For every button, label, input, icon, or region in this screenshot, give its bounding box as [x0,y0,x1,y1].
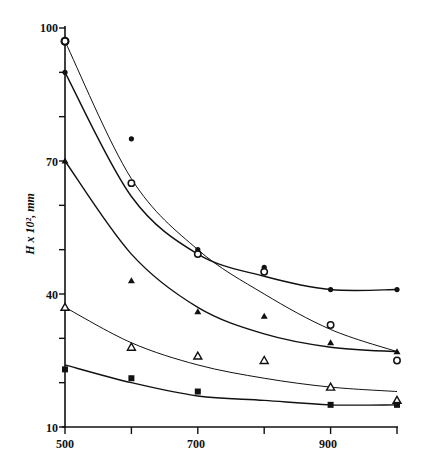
data-point-filled-circle [394,287,399,292]
data-point-open-circle [62,38,68,44]
data-point-filled-square [62,366,68,372]
y-tick-label-100: 100 [40,21,58,35]
x-tick-label-900: 900 [319,437,337,451]
y-tick-label-70: 70 [46,155,58,169]
data-point-filled-square [328,402,334,408]
fit-curve-filled-circle [65,72,397,290]
data-point-open-triangle [194,352,202,359]
data-point-filled-triangle [261,313,268,319]
data-point-filled-circle [62,70,67,75]
data-point-filled-triangle [327,339,334,345]
fit-curve-filled-triangle [65,161,397,352]
axes [62,26,398,428]
data-point-filled-circle [129,136,134,141]
data-point-open-circle [195,251,201,257]
x-ticks [65,427,397,434]
data-point-filled-triangle [128,277,135,283]
y-axis-title: H x 10², mm [23,193,37,256]
data-markers [61,37,402,408]
x-tick-label-700: 700 [187,437,205,451]
data-point-filled-square [195,389,201,395]
x-tick-label-500: 500 [56,437,74,451]
y-tick-label-40: 40 [46,288,58,302]
fit-curve-open-circle [65,41,397,351]
data-point-open-circle [394,357,400,363]
fit-curves [65,41,397,405]
chart-plot: 100 70 40 10 500 700 900 H x 10², mm [0,0,423,472]
data-point-open-triangle [61,303,69,310]
data-point-open-triangle [260,357,268,364]
fit-curve-filled-square [65,365,397,405]
data-point-open-circle [261,269,267,275]
data-point-filled-circle [328,287,333,292]
data-point-open-circle [327,322,333,328]
data-point-filled-square [128,375,134,381]
y-tick-label-10: 10 [46,421,58,435]
data-point-open-triangle [327,383,335,390]
data-point-filled-square [394,402,400,408]
data-point-open-circle [128,180,134,186]
